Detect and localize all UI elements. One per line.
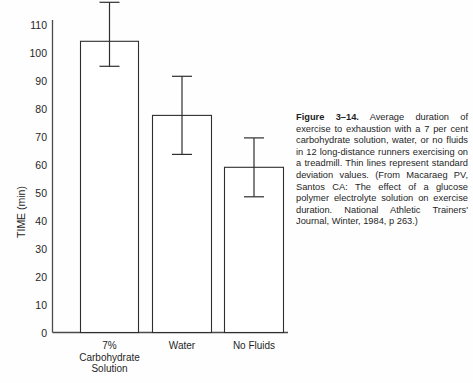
figure-container: 0 10 20 30 40 50 60 70 80 90 100 110 TIM… — [0, 0, 473, 383]
y-tick-label: 0 — [41, 327, 47, 339]
bar-group-no-fluids — [225, 138, 284, 333]
y-tick-label: 40 — [35, 215, 47, 227]
x-category-label: Solution — [91, 363, 127, 374]
figure-caption-label: Figure 3–14. — [296, 112, 359, 122]
x-category-label: Carbohydrate — [79, 352, 140, 363]
figure-caption: Figure 3–14. Average duration of exercis… — [296, 112, 468, 228]
y-tick-labels: 0 10 20 30 40 50 60 70 80 90 100 110 — [29, 19, 47, 339]
y-tick-label: 60 — [35, 159, 47, 171]
x-category-label: 7% — [102, 340, 117, 351]
y-tick-label: 50 — [35, 187, 47, 199]
y-tick-label: 80 — [35, 103, 47, 115]
bar-chart: 0 10 20 30 40 50 60 70 80 90 100 110 TIM… — [0, 0, 292, 383]
y-tick-label: 30 — [35, 243, 47, 255]
bar-rect — [81, 41, 139, 332]
x-category-label: Water — [169, 340, 196, 351]
bar-group-water — [153, 76, 212, 332]
bar-group-carbohydrate — [81, 2, 139, 332]
chart-svg: 0 10 20 30 40 50 60 70 80 90 100 110 TIM… — [0, 0, 292, 383]
x-category-label: No Fluids — [233, 340, 275, 351]
y-axis-title: TIME (min) — [15, 186, 27, 238]
y-tick-label: 10 — [35, 299, 47, 311]
y-tick-label: 90 — [35, 75, 47, 87]
x-category-labels: 7% Carbohydrate Solution Water No Fluids — [79, 340, 275, 374]
y-tick-label: 100 — [29, 47, 47, 59]
figure-caption-text: Average duration of exercise to exhausti… — [296, 112, 468, 226]
y-tick-label: 20 — [35, 271, 47, 283]
y-tick-label: 70 — [35, 131, 47, 143]
y-tick-label: 110 — [30, 19, 47, 31]
